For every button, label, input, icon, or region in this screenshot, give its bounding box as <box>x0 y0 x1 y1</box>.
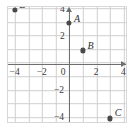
coordinate-plane-figure: −4−2024 42−2−4 ABCD <box>0 0 135 129</box>
data-point-label: D <box>20 6 27 10</box>
y-axis <box>69 9 70 122</box>
x-tick-label: 0 <box>61 68 66 78</box>
x-tick-label: −4 <box>10 68 20 78</box>
x-axis-arrow-icon <box>121 61 126 67</box>
data-point-label: B <box>88 41 94 51</box>
data-point-label: A <box>74 14 80 24</box>
x-tick-label: −2 <box>37 68 47 78</box>
x-axis <box>8 64 126 65</box>
y-tick-label: 4 <box>60 6 65 14</box>
y-tick-label: −2 <box>54 86 64 96</box>
x-tick-label: 2 <box>94 68 99 78</box>
y-tick-label: −4 <box>54 114 64 123</box>
data-point-label: C <box>115 108 122 118</box>
y-tick-label: 2 <box>60 32 65 42</box>
y-axis-arrow-icon <box>66 7 72 12</box>
x-tick-label: 4 <box>121 68 126 78</box>
plot-frame: −4−2024 42−2−4 ABCD <box>7 6 127 123</box>
